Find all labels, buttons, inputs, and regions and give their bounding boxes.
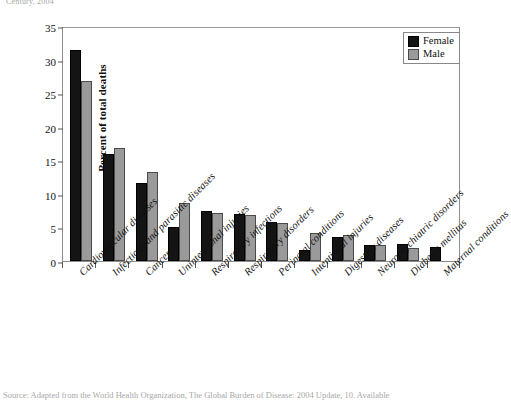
plot-area: Percent of total deaths 05101520253035 (62, 27, 460, 262)
legend-entry-female: Female (408, 36, 454, 47)
y-tick-label: 30 (22, 56, 63, 68)
bar-group (65, 28, 98, 261)
bar-male (81, 81, 92, 261)
x-tick-cell (294, 262, 327, 268)
bar-male (147, 172, 158, 261)
x-tick-mark (162, 262, 163, 268)
x-tick-cell (261, 262, 294, 268)
bar-male (114, 148, 125, 261)
bar-group (359, 28, 392, 261)
x-tick-cell (95, 262, 128, 268)
y-tick-label: 25 (22, 89, 63, 101)
legend-swatch-male (408, 49, 419, 60)
x-axis-ticks (62, 262, 460, 268)
x-tick-cell (394, 262, 427, 268)
y-tick-label: 10 (22, 190, 63, 202)
bar-female (201, 211, 212, 261)
legend-label-female: Female (423, 36, 454, 47)
bar-group (130, 28, 163, 261)
x-tick-mark (128, 262, 129, 268)
y-tick-label: 5 (22, 223, 63, 235)
bar-male (310, 233, 321, 261)
y-tick-label: 15 (22, 156, 63, 168)
bar-group (294, 28, 327, 261)
x-tick-cell (162, 262, 195, 268)
bar-female (168, 227, 179, 261)
bar-female (332, 237, 343, 261)
bar-male (179, 203, 190, 261)
source-caption: Source: Adapted from the World Health Or… (3, 390, 491, 400)
bar-group (163, 28, 196, 261)
x-tick-mark (294, 262, 295, 268)
y-tick-label: 0 (22, 257, 63, 269)
x-tick-mark (327, 262, 328, 268)
bar-male (245, 215, 256, 261)
legend-swatch-female (408, 36, 419, 47)
bar-female (234, 214, 245, 261)
bar-female (136, 183, 147, 261)
chart-legend: Female Male (403, 32, 460, 64)
bar-group (196, 28, 229, 261)
x-tick-cell (361, 262, 394, 268)
bar-female (364, 245, 375, 261)
bar-female (70, 50, 81, 262)
x-tick-mark (95, 262, 96, 268)
x-tick-cell (195, 262, 228, 268)
bar-female (430, 247, 441, 261)
bar-series-container (63, 28, 459, 261)
y-tick-label: 35 (22, 22, 63, 34)
bar-group (326, 28, 359, 261)
legend-entry-male: Male (408, 49, 454, 60)
x-tick-cell (128, 262, 161, 268)
bar-female (266, 222, 277, 261)
x-tick-mark (459, 262, 460, 268)
x-tick-cell (228, 262, 261, 268)
legend-label-male: Male (423, 49, 445, 60)
bar-male (408, 248, 419, 261)
bar-group (261, 28, 294, 261)
bar-female (299, 250, 310, 261)
bar-female (103, 154, 114, 261)
bar-male (277, 223, 288, 261)
bar-group (98, 28, 131, 261)
y-tick-label: 20 (22, 123, 63, 135)
x-tick-mark (427, 262, 428, 268)
top-caption: Century, 2004 (6, 0, 54, 6)
x-tick-cell (427, 262, 460, 268)
bar-male (212, 213, 223, 261)
bar-male (375, 245, 386, 261)
x-tick-mark (195, 262, 196, 268)
x-tick-mark (261, 262, 262, 268)
x-tick-mark (394, 262, 395, 268)
x-tick-mark (62, 262, 63, 268)
x-tick-cell (327, 262, 360, 268)
bar-group (228, 28, 261, 261)
x-tick-mark (361, 262, 362, 268)
x-tick-mark (228, 262, 229, 268)
bar-male (343, 235, 354, 261)
x-tick-cell (62, 262, 95, 268)
bar-female (397, 244, 408, 261)
